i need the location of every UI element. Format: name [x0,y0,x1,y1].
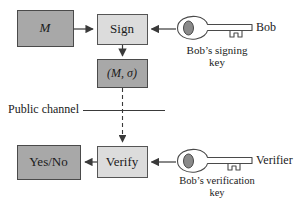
public-channel-label: Public channel [8,103,79,116]
signing-key-caption: Bob’s signing key [171,44,263,69]
signing-key-caption-line2: key [171,56,263,68]
message-box [18,11,74,47]
bob-owner-label: Bob [256,21,276,34]
signing-key-icon [178,16,253,39]
verification-key-caption-line1: Bob’s verification [165,175,269,187]
sign-box [98,15,148,45]
signed-message-box [98,60,148,88]
verification-key-caption-line2: key [165,187,269,199]
verification-key-caption: Bob’s verification key [165,175,269,199]
verify-box [98,147,148,178]
signature-scheme-diagram: M Sign (M, σ) Verify Yes/No Public chann… [0,0,306,206]
result-box [18,146,81,180]
verifier-owner-label: Verifier [256,154,293,167]
signing-key-caption-line1: Bob’s signing [171,44,263,56]
verification-key-icon [178,149,253,172]
